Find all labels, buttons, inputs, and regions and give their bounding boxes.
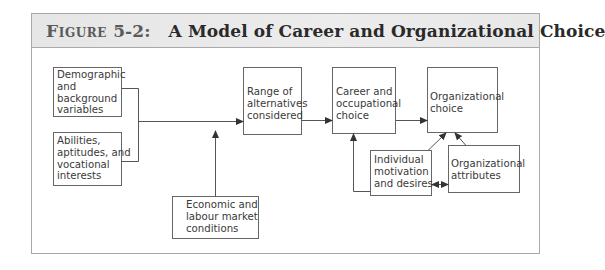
label-demographic: Demographic and background variables xyxy=(57,69,126,116)
label-org-choice: Organizational choice xyxy=(430,91,504,115)
label-economic: Economic and labour market conditions xyxy=(186,199,258,234)
label-abilities: Abilities, aptitudes, and vocational int… xyxy=(57,135,131,182)
label-individual: Individual motivation and desires xyxy=(374,154,433,189)
label-org-attributes: Organizational attributes xyxy=(451,158,525,182)
label-range: Range of alternatives considered xyxy=(247,86,307,121)
arrow-individual-to-org-choice xyxy=(428,133,446,151)
arrow-attributes-to-org-choice xyxy=(455,133,466,146)
label-career: Career and occupational choice xyxy=(336,86,401,121)
arrow-individual-to-career xyxy=(354,134,371,192)
